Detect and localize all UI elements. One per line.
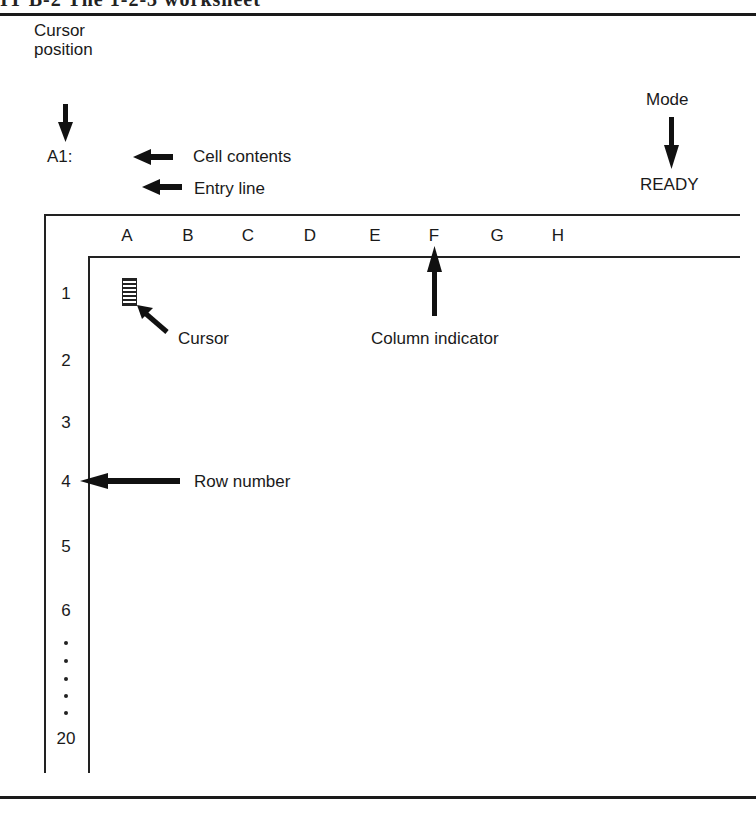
- ellipsis-dot: [64, 641, 68, 645]
- cell-address: A1:: [47, 148, 73, 165]
- column-header-f: F: [424, 227, 444, 244]
- top-rule: [0, 13, 756, 16]
- arrow-up-left-icon: [137, 305, 171, 335]
- arrow-down-icon: [664, 117, 680, 169]
- cursor-position-label-line1: Cursor: [34, 22, 93, 39]
- ellipsis-dot: [64, 677, 68, 681]
- arrow-left-icon: [133, 149, 173, 165]
- cell-contents-label: Cell contents: [193, 148, 291, 165]
- mode-indicator: READY: [640, 176, 699, 193]
- entry-line-label: Entry line: [194, 180, 265, 197]
- row-number-6: 6: [52, 602, 80, 619]
- row-number-label: Row number: [194, 473, 290, 490]
- arrow-left-icon: [142, 179, 182, 195]
- cursor-position-label: Cursor position: [34, 22, 93, 58]
- outer-frame-left: [44, 214, 46, 773]
- column-header-h: H: [548, 227, 568, 244]
- column-header-c: C: [238, 227, 258, 244]
- column-header-b: B: [178, 227, 198, 244]
- row-number-1: 1: [52, 285, 80, 302]
- row-number-20: 20: [52, 730, 80, 747]
- figure-title: IT B-2 The 1-2-3 worksheet: [0, 0, 261, 11]
- inner-frame-top: [88, 256, 740, 258]
- cursor-position-label-line2: position: [34, 41, 93, 58]
- row-number-2: 2: [52, 352, 80, 369]
- column-indicator-label: Column indicator: [371, 330, 499, 347]
- column-header-e: E: [365, 227, 385, 244]
- row-number-3: 3: [52, 414, 80, 431]
- column-header-g: G: [487, 227, 507, 244]
- inner-frame-left: [88, 256, 90, 773]
- row-number-5: 5: [52, 538, 80, 555]
- mode-label: Mode: [646, 91, 689, 108]
- cursor-label: Cursor: [178, 330, 229, 347]
- bottom-rule: [0, 796, 756, 799]
- ellipsis-dot: [64, 694, 68, 698]
- ellipsis-dot: [64, 659, 68, 663]
- ellipsis-dot: [64, 711, 68, 715]
- arrow-left-icon: [80, 473, 180, 489]
- arrow-up-icon: [427, 246, 443, 318]
- outer-frame-top: [44, 214, 740, 216]
- column-header-a: A: [117, 227, 137, 244]
- arrow-down-icon: [58, 104, 74, 142]
- cell-cursor: [122, 278, 137, 306]
- column-header-d: D: [300, 227, 320, 244]
- row-number-4: 4: [52, 473, 80, 490]
